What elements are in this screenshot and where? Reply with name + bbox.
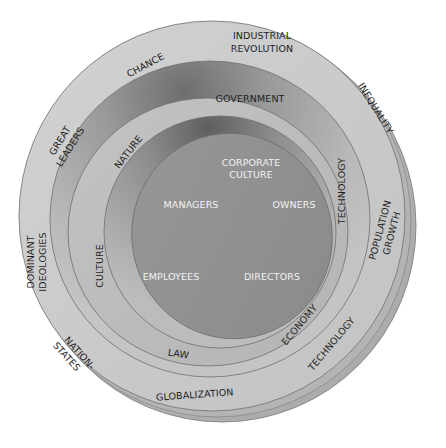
svg-text:REVOLUTION: REVOLUTION (231, 43, 293, 54)
label-technology-inner: TECHNOLOGY (336, 158, 347, 225)
corporate-culture-diagram: CORPORATE CULTURE MANAGERS OWNERS EMPLOY… (0, 0, 446, 448)
core-title-line2: CULTURE (229, 169, 273, 180)
actor-managers: MANAGERS (164, 199, 219, 210)
label-culture: CULTURE (94, 244, 105, 288)
actor-employees: EMPLOYEES (143, 271, 200, 282)
actor-directors: DIRECTORS (244, 271, 300, 282)
actor-owners: OWNERS (272, 199, 315, 210)
core-title-line1: CORPORATE (222, 157, 281, 168)
svg-text:DOMINANT: DOMINANT (25, 235, 36, 288)
svg-text:INDUSTRIAL: INDUSTRIAL (233, 30, 292, 41)
label-government: GOVERNMENT (216, 93, 285, 104)
svg-text:IDEOLOGIES: IDEOLOGIES (37, 232, 48, 291)
label-dominant-ideologies: DOMINANT IDEOLOGIES (25, 232, 48, 291)
